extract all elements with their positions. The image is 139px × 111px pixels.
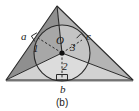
triangle-incircle-diagram <box>0 0 139 111</box>
region-label-3: 3 <box>70 42 76 53</box>
side-label-c: c <box>86 31 91 42</box>
incenter-label-o: O <box>56 35 64 46</box>
incenter-point <box>59 50 64 55</box>
region-label-2: 2 <box>62 61 68 72</box>
side-label-b: b <box>60 84 66 95</box>
figure-caption: (b) <box>56 98 68 108</box>
geometry-figure: a b c O 1 2 3 (b) <box>0 0 139 111</box>
region-label-1: 1 <box>33 43 39 54</box>
side-label-a: a <box>21 31 27 42</box>
